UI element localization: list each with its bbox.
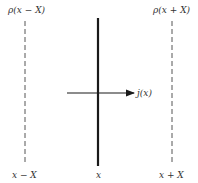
top-right-label: ρ(x + X) <box>152 5 191 15</box>
bottom-center-label: x <box>96 170 101 180</box>
bottom-right-label: x + X <box>159 170 184 180</box>
arrow-label: j(x) <box>135 88 152 98</box>
top-left-label: ρ(x − X) <box>7 5 46 15</box>
flux-diagram: ρ(x − X) ρ(x + X) j(x) x − X x x + X <box>0 0 198 183</box>
bottom-left-label: x − X <box>12 170 37 180</box>
